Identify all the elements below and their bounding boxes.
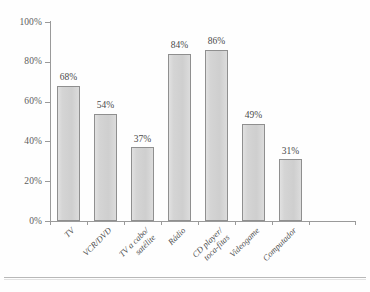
bar-tv-a-cabo-satelite — [131, 147, 154, 221]
bar-radio — [168, 54, 191, 221]
y-axis-tick-label: 40% — [24, 137, 42, 147]
bar-value-label: 54% — [91, 101, 120, 111]
y-tick-mark — [45, 181, 50, 182]
bar-value-label: 68% — [54, 73, 83, 83]
bar-value-label: 31% — [276, 147, 305, 157]
y-axis-tick-label: 20% — [24, 177, 42, 187]
bar-value-label: 86% — [202, 37, 231, 47]
bar-tv — [57, 86, 80, 221]
x-tick-mark — [235, 221, 236, 225]
bar-computador — [279, 159, 302, 221]
y-axis-tick-label: 80% — [24, 57, 42, 67]
category-line: TV — [62, 225, 76, 239]
x-tick-mark — [50, 221, 51, 225]
y-tick-mark — [45, 62, 50, 63]
category-line: Computador — [261, 225, 299, 263]
x-tick-mark — [124, 221, 125, 225]
x-tick-mark — [198, 221, 199, 225]
bar-chart-figure: 0% 20% 40% 60% 80% 100% 68% TV 54% VCR/D… — [0, 0, 370, 292]
y-axis-line — [50, 21, 51, 222]
category-line: VCR/DVD — [81, 225, 114, 258]
bar-videogame — [242, 124, 265, 222]
x-tick-mark — [309, 221, 310, 225]
category-line: Rádio — [166, 225, 188, 247]
x-tick-mark — [87, 221, 88, 225]
category-line: Videogame — [227, 225, 261, 259]
bar-vcr-dvd — [94, 114, 117, 222]
bar-value-label: 49% — [239, 111, 268, 121]
y-axis-tick-label: 0% — [29, 217, 42, 227]
bar-cd-player-toca-fitas — [205, 50, 228, 221]
x-tick-mark — [272, 221, 273, 225]
y-axis-tick-label: 100% — [19, 18, 42, 28]
y-tick-mark — [45, 102, 50, 103]
y-tick-mark — [45, 22, 50, 23]
bar-value-label: 37% — [128, 135, 157, 145]
page-rule-shadow — [4, 279, 366, 280]
bar-value-label: 84% — [165, 41, 194, 51]
page-rule — [4, 277, 366, 278]
y-tick-mark — [45, 141, 50, 142]
x-tick-mark — [355, 221, 356, 225]
x-tick-mark — [161, 221, 162, 225]
y-axis-tick-label: 60% — [24, 97, 42, 107]
